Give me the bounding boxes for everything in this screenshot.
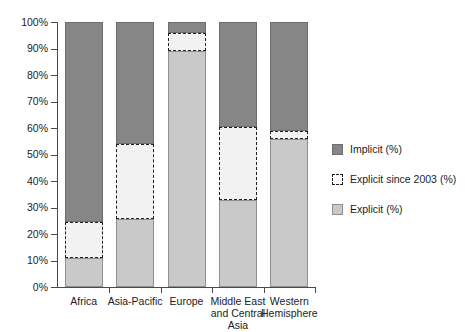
y-axis-tick-label: 20% — [2, 229, 48, 240]
bar-group — [116, 22, 154, 287]
bar-segment-explicit-since-2003 — [219, 127, 257, 200]
legend-item-implicit: Implicit (%) — [332, 134, 472, 164]
legend-swatch-implicit-icon — [332, 144, 343, 155]
y-axis-tick-label: 80% — [2, 70, 48, 81]
bar-segment-explicit-since-2003 — [116, 144, 154, 220]
bar-segment-implicit — [65, 22, 103, 222]
x-axis-category-label: WesternHemisphere — [249, 295, 329, 319]
legend-item-explicit-since-2003: Explicit since 2003 (%) — [332, 164, 472, 194]
x-axis-tick — [315, 288, 316, 293]
bar-group — [65, 22, 103, 287]
stacked-bar-chart: 0%10%20%30%40%50%60%70%80%90%100% Africa… — [0, 0, 473, 332]
y-axis-tick-label: 40% — [2, 176, 48, 187]
y-axis-tick-label: 0% — [2, 282, 48, 293]
x-axis-category-label-line: Hemisphere — [249, 307, 329, 319]
legend-label-implicit: Implicit (%) — [350, 143, 402, 155]
bar-segment-implicit — [168, 22, 206, 33]
bar-segment-implicit — [116, 22, 154, 144]
bar-segment-implicit — [270, 22, 308, 131]
x-axis-category-label-line: Asia — [198, 319, 278, 331]
chart-legend: Implicit (%) Explicit since 2003 (%) Exp… — [332, 134, 472, 224]
legend-swatch-explicit-icon — [332, 204, 343, 215]
legend-label-explicit: Explicit (%) — [350, 203, 403, 215]
x-axis-tick — [109, 288, 110, 293]
bar-segment-explicit — [219, 200, 257, 287]
legend-label-explicit-since-2003: Explicit since 2003 (%) — [350, 173, 456, 185]
y-axis-tick-label: 50% — [2, 149, 48, 160]
y-axis-tick-label: 30% — [2, 202, 48, 213]
y-axis-tick-label: 70% — [2, 96, 48, 107]
legend-swatch-explicit-since-2003-icon — [332, 174, 343, 185]
legend-item-explicit: Explicit (%) — [332, 194, 472, 224]
x-axis-tick — [161, 288, 162, 293]
y-axis-tick-label: 90% — [2, 43, 48, 54]
bar-group — [270, 22, 308, 287]
bar-segment-explicit-since-2003 — [65, 222, 103, 258]
y-axis-tick-label: 100% — [2, 17, 48, 28]
bar-segment-explicit-since-2003 — [168, 33, 206, 52]
bar-segment-explicit — [116, 219, 154, 287]
bar-group — [168, 22, 206, 287]
y-axis-tick-label: 10% — [2, 255, 48, 266]
y-axis-tick-label: 60% — [2, 123, 48, 134]
x-axis-category-label-line: Western — [249, 295, 329, 307]
plot-area — [58, 22, 315, 287]
x-axis-tick — [264, 288, 265, 293]
bar-segment-explicit-since-2003 — [270, 131, 308, 139]
bar-segment-implicit — [219, 22, 257, 127]
bar-group — [219, 22, 257, 287]
x-axis-line — [57, 287, 316, 288]
bar-segment-explicit — [270, 139, 308, 287]
bar-segment-explicit — [168, 51, 206, 287]
x-axis-tick — [212, 288, 213, 293]
bar-segment-explicit — [65, 258, 103, 287]
